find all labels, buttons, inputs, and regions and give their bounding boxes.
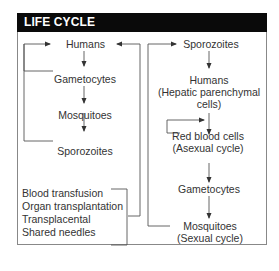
node-humans: Humans [58, 38, 113, 50]
route-blood-transfusion: Blood transfusion [22, 187, 103, 199]
node-red-blood-cells: Red blood cells (Asexual cycle) [158, 130, 258, 154]
node-mosquitoes: Mosquitoes [50, 109, 120, 121]
node-humans-hepatic: Humans (Hepatic parenchymal cells) [150, 74, 268, 110]
route-organ-transplantation: Organ transplantation [22, 200, 123, 212]
loop-arrow [24, 44, 53, 71]
node-gametocytes: Gametocytes [50, 73, 120, 85]
node-sporozoites-right: Sporozoites [176, 38, 246, 50]
node-mosquitoes-sexual: Mosquitoes (Sexual cycle) [165, 220, 255, 244]
route-shared-needles: Shared needles [22, 226, 96, 238]
route-transplacental: Transplacental [22, 213, 90, 225]
node-sporozoites: Sporozoites [50, 145, 120, 157]
node-gametocytes-right: Gametocytes [170, 183, 248, 195]
